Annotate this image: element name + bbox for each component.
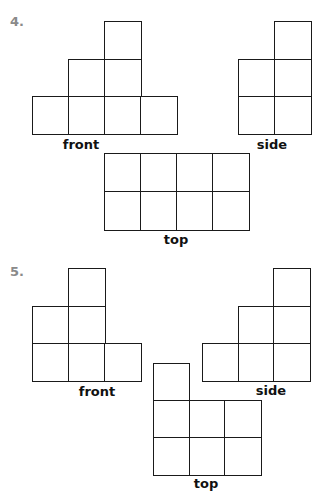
grid-cell [212,153,250,193]
grid-cell [68,59,106,98]
view-label-side: side [257,137,287,152]
grid-cell [273,268,310,307]
grid-cell [32,306,70,345]
grid-cell [140,96,178,135]
grid-cell [153,400,190,439]
problem-number: 4. [10,14,24,29]
grid-cell [189,400,226,439]
grid-cell [140,191,178,231]
grid-cell [32,343,70,382]
grid-cell [212,191,250,231]
grid-cell [238,96,276,135]
grid-cell [104,59,142,98]
grid-cell [140,153,178,193]
grid-cell [176,191,214,231]
view-label-side: side [256,383,286,398]
grid-cell [104,153,142,193]
grid-cell [274,59,312,98]
grid-cell [274,96,312,135]
grid-cell [32,96,70,135]
grid-cell [224,437,261,476]
grid-cell [176,153,214,193]
problem-number: 5. [10,264,24,279]
view-label-top: top [164,232,188,247]
grid-cell [104,96,142,135]
grid-cell [68,268,106,307]
grid-cell [202,343,239,382]
grid-cell [189,437,226,476]
grid-cell [273,343,310,382]
grid-cell [238,343,275,382]
view-label-front: front [63,137,99,152]
grid-cell [68,343,106,382]
grid-cell [224,400,261,439]
grid-cell [238,306,275,345]
grid-cell [273,306,310,345]
grid-cell [68,96,106,135]
view-label-top: top [194,476,218,491]
grid-cell [238,59,276,98]
grid-cell [104,21,142,60]
view-label-front: front [79,384,115,399]
grid-cell [104,343,142,382]
grid-cell [153,437,190,476]
grid-cell [104,191,142,231]
grid-cell [68,306,106,345]
grid-cell [153,363,190,402]
grid-cell [274,21,312,60]
